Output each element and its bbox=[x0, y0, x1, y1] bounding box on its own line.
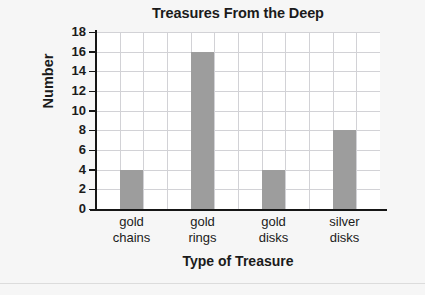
x-category-line: silver bbox=[329, 214, 359, 229]
x-category-line: gold bbox=[261, 214, 286, 229]
x-category-line: rings bbox=[163, 230, 243, 246]
y-tick-label: 16 bbox=[56, 45, 86, 58]
bar bbox=[333, 130, 357, 209]
vertical-gridline bbox=[143, 32, 144, 209]
x-category-line: gold bbox=[119, 214, 144, 229]
y-tick-label: 4 bbox=[56, 163, 86, 176]
y-tick-mark bbox=[89, 51, 96, 53]
y-tick-label: 10 bbox=[56, 104, 86, 117]
horizontal-gridline bbox=[96, 32, 380, 33]
vertical-gridline bbox=[167, 32, 168, 209]
vertical-gridline bbox=[309, 32, 310, 209]
y-axis-line bbox=[95, 30, 97, 211]
y-tick-mark bbox=[89, 91, 96, 93]
horizontal-gridline bbox=[96, 71, 380, 72]
vertical-gridline bbox=[285, 32, 286, 209]
bar bbox=[191, 52, 215, 209]
y-tick-label: 12 bbox=[56, 84, 86, 97]
y-tick-mark bbox=[89, 32, 96, 34]
y-tick-label: 8 bbox=[56, 123, 86, 136]
x-category-line: chains bbox=[92, 230, 172, 246]
y-tick-label: 2 bbox=[56, 182, 86, 195]
vertical-gridline bbox=[214, 32, 215, 209]
vertical-gridline bbox=[356, 32, 357, 209]
x-category-label: silverdisks bbox=[305, 214, 385, 246]
vertical-gridline bbox=[238, 32, 239, 209]
y-tick-mark bbox=[89, 130, 96, 132]
y-tick-mark bbox=[89, 110, 96, 112]
bottom-divider bbox=[0, 283, 425, 284]
y-tick-mark bbox=[89, 150, 96, 152]
bar bbox=[120, 170, 144, 209]
x-category-line: gold bbox=[190, 214, 215, 229]
y-tick-label: 0 bbox=[56, 202, 86, 215]
x-axis-line bbox=[90, 209, 387, 211]
x-category-line: disks bbox=[305, 230, 385, 246]
y-tick-label: 6 bbox=[56, 143, 86, 156]
y-tick-label: 18 bbox=[56, 25, 86, 38]
y-tick-mark bbox=[89, 209, 96, 211]
y-tick-mark bbox=[89, 169, 96, 171]
horizontal-gridline bbox=[96, 111, 380, 112]
y-tick-mark bbox=[89, 189, 96, 191]
y-tick-mark bbox=[89, 71, 96, 73]
x-category-label: goldrings bbox=[163, 214, 243, 246]
y-tick-label: 14 bbox=[56, 64, 86, 77]
chart-title: Treasures From the Deep bbox=[96, 5, 380, 21]
x-axis-title: Type of Treasure bbox=[96, 253, 380, 269]
chart-figure: Treasures From the Deep Number 181614121… bbox=[0, 0, 425, 295]
bar bbox=[262, 170, 286, 209]
x-category-line: disks bbox=[234, 230, 314, 246]
x-category-label: goldchains bbox=[92, 214, 172, 246]
x-category-label: golddisks bbox=[234, 214, 314, 246]
horizontal-gridline bbox=[96, 52, 380, 53]
horizontal-gridline bbox=[96, 91, 380, 92]
